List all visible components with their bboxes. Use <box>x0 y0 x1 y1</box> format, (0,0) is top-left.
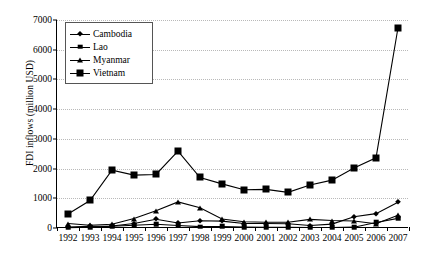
data-point-vietnam <box>109 167 116 174</box>
data-point-cambodia <box>373 211 379 217</box>
x-tick-label: 2007 <box>389 233 408 243</box>
x-tick-label: 1997 <box>169 233 188 243</box>
data-point-vietnam <box>175 148 182 155</box>
data-point-myanmar <box>219 216 225 221</box>
x-tick-mark <box>211 227 212 231</box>
y-tick-label: 0 <box>47 223 57 233</box>
y-tick-label: 4000 <box>33 104 57 114</box>
data-point-lao <box>286 225 291 230</box>
legend-marker-square-icon <box>70 41 90 52</box>
x-tick-mark <box>101 227 102 231</box>
x-tick-mark <box>343 227 344 231</box>
data-point-myanmar <box>65 221 71 226</box>
x-tick-label: 2006 <box>367 233 386 243</box>
data-point-vietnam <box>153 171 160 178</box>
data-point-myanmar <box>109 222 115 227</box>
x-tick-label: 1996 <box>147 233 166 243</box>
x-tick-mark <box>365 227 366 231</box>
chart-figure: FDI inflows (million USD) CambodiaLaoMya… <box>0 0 434 274</box>
x-tick-mark <box>79 227 80 231</box>
x-tick-label: 2004 <box>323 233 342 243</box>
x-tick-mark <box>189 227 190 231</box>
x-tick-mark <box>387 227 388 231</box>
data-point-myanmar <box>197 205 203 210</box>
data-point-cambodia <box>197 218 203 224</box>
legend-marker-diamond-icon <box>70 28 90 39</box>
data-point-vietnam <box>241 186 248 193</box>
legend-item-myanmar[interactable]: Myanmar <box>70 53 147 66</box>
data-point-myanmar <box>263 220 269 225</box>
data-point-myanmar <box>175 199 181 204</box>
x-tick-mark <box>299 227 300 231</box>
x-tick-label: 1998 <box>191 233 210 243</box>
x-tick-label: 2003 <box>301 233 320 243</box>
legend-marker-triangle-icon <box>70 54 90 65</box>
x-tick-mark <box>409 227 410 231</box>
legend-item-cambodia[interactable]: Cambodia <box>70 27 147 40</box>
data-point-myanmar <box>351 218 357 223</box>
data-point-lao <box>154 222 159 227</box>
x-tick-mark <box>255 227 256 231</box>
data-point-myanmar <box>373 221 379 226</box>
legend-marker-filled-square-icon <box>70 67 90 78</box>
data-point-lao <box>308 225 313 230</box>
x-tick-mark <box>123 227 124 231</box>
data-point-lao <box>330 225 335 230</box>
x-tick-label: 1994 <box>103 233 122 243</box>
data-point-vietnam <box>87 197 94 204</box>
data-point-vietnam <box>329 177 336 184</box>
legend-label: Myanmar <box>93 55 130 65</box>
y-tick-label: 5000 <box>33 74 57 84</box>
y-tick-label: 1000 <box>33 193 57 203</box>
y-tick-label: 2000 <box>33 164 57 174</box>
x-tick-label: 1992 <box>59 233 78 243</box>
data-point-vietnam <box>219 180 226 187</box>
data-point-myanmar <box>285 220 291 225</box>
x-tick-label: 1995 <box>125 233 144 243</box>
data-point-vietnam <box>65 210 72 217</box>
x-tick-mark <box>167 227 168 231</box>
data-point-lao <box>132 223 137 228</box>
chart-legend: CambodiaLaoMyanmarVietnam <box>65 22 153 84</box>
data-point-vietnam <box>285 189 292 196</box>
legend-label: Lao <box>93 42 108 52</box>
y-tick-label: 6000 <box>33 45 57 55</box>
data-point-vietnam <box>395 24 402 31</box>
data-point-lao <box>264 225 269 230</box>
data-point-vietnam <box>131 172 138 179</box>
data-point-myanmar <box>87 223 93 228</box>
data-point-vietnam <box>373 154 380 161</box>
data-point-myanmar <box>307 217 313 222</box>
data-point-lao <box>220 224 225 229</box>
data-point-lao <box>352 225 357 230</box>
x-tick-mark <box>277 227 278 231</box>
data-point-myanmar <box>153 208 159 213</box>
x-tick-mark <box>145 227 146 231</box>
x-tick-label: 2005 <box>345 233 364 243</box>
data-point-myanmar <box>241 219 247 224</box>
data-point-myanmar <box>395 213 401 218</box>
x-tick-label: 2001 <box>257 233 276 243</box>
data-point-vietnam <box>351 164 358 171</box>
data-point-lao <box>176 223 181 228</box>
data-point-myanmar <box>131 216 137 221</box>
data-point-lao <box>66 225 71 230</box>
legend-item-lao[interactable]: Lao <box>70 40 147 53</box>
plot-area: CambodiaLaoMyanmarVietnam 01000200030004… <box>56 20 408 228</box>
x-tick-mark <box>57 227 58 231</box>
data-point-myanmar <box>329 218 335 223</box>
x-tick-label: 1993 <box>81 233 100 243</box>
y-tick-label: 3000 <box>33 134 57 144</box>
x-tick-label: 2002 <box>279 233 298 243</box>
data-point-vietnam <box>307 181 314 188</box>
data-point-lao <box>242 225 247 230</box>
data-point-vietnam <box>263 186 270 193</box>
x-tick-mark <box>233 227 234 231</box>
data-point-cambodia <box>395 199 401 205</box>
legend-label: Vietnam <box>93 68 125 78</box>
x-tick-mark <box>321 227 322 231</box>
x-tick-label: 2000 <box>235 233 254 243</box>
legend-item-vietnam[interactable]: Vietnam <box>70 66 147 79</box>
data-point-lao <box>198 224 203 229</box>
data-point-vietnam <box>197 174 204 181</box>
